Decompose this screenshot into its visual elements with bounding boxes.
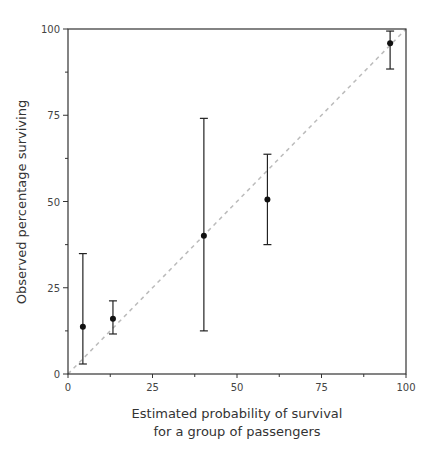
- point-marker: [80, 324, 86, 330]
- x-tick-label: 0: [65, 382, 71, 393]
- y-tick-label: 75: [47, 110, 60, 121]
- y-tick-label: 50: [47, 197, 60, 208]
- reference-diagonal-line: [68, 29, 406, 374]
- point-marker: [387, 40, 393, 46]
- y-axis-ticks: 0255075100: [41, 24, 68, 380]
- point-marker: [264, 196, 270, 202]
- x-tick-label: 25: [146, 382, 159, 393]
- x-axis-title-line-1: Estimated probability of survival: [132, 406, 343, 421]
- x-axis-title-line-2: for a group of passengers: [153, 424, 320, 439]
- error-bar-point: [386, 31, 394, 69]
- point-marker: [201, 233, 207, 239]
- x-tick-label: 100: [396, 382, 415, 393]
- x-tick-label: 50: [231, 382, 244, 393]
- x-tick-label: 75: [315, 382, 328, 393]
- y-axis-title: Observed percentage surviving: [14, 100, 29, 304]
- calibration-chart: 0255075100 0255075100 Estimated probabil…: [0, 0, 439, 459]
- y-tick-label: 100: [41, 24, 60, 35]
- y-tick-label: 0: [54, 369, 60, 380]
- y-tick-label: 25: [47, 283, 60, 294]
- x-axis-ticks: 0255075100: [65, 374, 416, 393]
- error-bar-point: [79, 254, 87, 364]
- error-bar-point: [200, 118, 208, 331]
- point-marker: [110, 316, 116, 322]
- diagonal-line: [68, 29, 406, 374]
- error-bar-point: [109, 301, 117, 334]
